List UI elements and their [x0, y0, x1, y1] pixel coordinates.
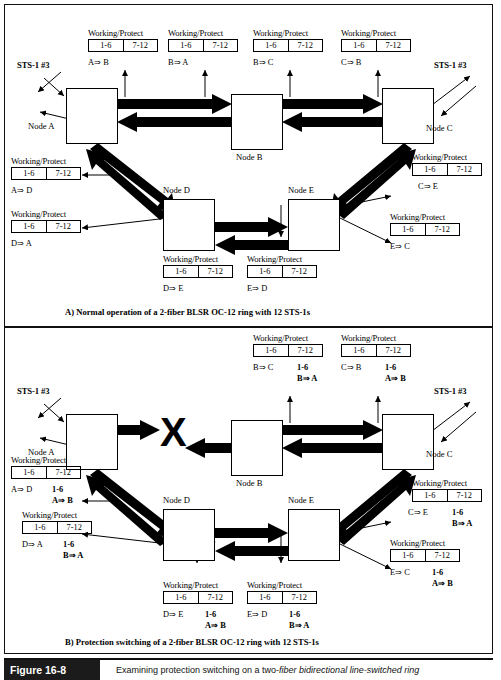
- wp-cell-working: 1-6: [169, 40, 204, 51]
- panelB-node-d-box[interactable]: [163, 509, 215, 561]
- wp-cell-protect: 7-12: [377, 40, 411, 51]
- panelB-table-c-to-b: Working/Protect 1-6 7-12: [341, 334, 411, 357]
- wp-box[interactable]: 1-6 7-12: [341, 344, 411, 357]
- panelB-flow-a-to-d: A⇒ D: [11, 485, 32, 495]
- wp-title: Working/Protect: [11, 157, 81, 166]
- panelB-sts-right: STS-1 #3: [434, 386, 466, 396]
- panelB-table-d-to-e: Working/Protect 1-6 7-12: [163, 581, 233, 604]
- wp-box[interactable]: 1-6 7-12: [247, 265, 317, 278]
- wp-cell-protect: 7-12: [377, 345, 411, 356]
- wp-box[interactable]: 1-6 7-12: [253, 39, 323, 52]
- wp-box[interactable]: 1-6 7-12: [22, 521, 92, 534]
- panelA-table-b-to-c: Working/Protect 1-6 7-12: [253, 29, 323, 52]
- panelA-node-d-box[interactable]: [163, 199, 215, 251]
- wp-box[interactable]: 1-6 7-12: [412, 163, 482, 176]
- wp-box[interactable]: 1-6 7-12: [11, 167, 81, 180]
- panelA-table-c-to-b: Working/Protect 1-6 7-12: [341, 29, 411, 52]
- panelA-node-c-box[interactable]: [382, 88, 434, 144]
- wp-title: Working/Protect: [412, 479, 482, 488]
- wp-box[interactable]: 1-6 7-12: [163, 591, 233, 604]
- wp-cell-working: 1-6: [12, 467, 47, 478]
- wp-box[interactable]: 1-6 7-12: [253, 344, 323, 357]
- panelA-table-d-to-a: Working/Protect 1-6 7-12: [11, 210, 81, 233]
- panelB-flow-c-to-b: C⇒ B: [341, 363, 361, 373]
- wp-title: Working/Protect: [11, 456, 81, 465]
- panel-divider: [5, 326, 492, 328]
- wp-title: Working/Protect: [22, 511, 92, 520]
- wp-cell-protect: 7-12: [204, 40, 238, 51]
- panelB-node-c-box[interactable]: [382, 414, 434, 470]
- panelA-table-d-to-e: Working/Protect 1-6 7-12: [163, 255, 233, 278]
- figure-page: Node A Node B Node C Node D Node E STS-1…: [0, 0, 501, 680]
- panelA-flow-d-to-a: D⇒ A: [11, 239, 32, 249]
- panelA-flow-c-to-e: C⇒ E: [418, 182, 438, 192]
- wp-box[interactable]: 1-6 7-12: [163, 265, 233, 278]
- panelA-node-b-box[interactable]: [231, 94, 283, 150]
- panelA-flow-e-to-c: E⇒ C: [390, 242, 410, 252]
- wp-cell-protect: 7-12: [199, 266, 233, 277]
- wp-title: Working/Protect: [412, 153, 482, 162]
- panelA-table-e-to-d: Working/Protect 1-6 7-12: [247, 255, 317, 278]
- figure-caption-bar: Figure 16-8 Examining protection switchi…: [4, 660, 493, 680]
- wp-cell-working: 1-6: [413, 490, 448, 501]
- panelB-prot-range-e-to-d: 1-6: [289, 610, 300, 620]
- wp-box[interactable]: 1-6 7-12: [168, 39, 238, 52]
- wp-title: Working/Protect: [253, 29, 323, 38]
- wp-cell-working: 1-6: [12, 221, 47, 232]
- panelB-prot-flow-d-to-e: A⇒ B: [205, 621, 226, 631]
- wp-cell-protect: 7-12: [199, 592, 233, 603]
- wp-title: Working/Protect: [163, 255, 233, 264]
- panelA-flow-b-to-c: B⇒ C: [253, 58, 273, 68]
- wp-box[interactable]: 1-6 7-12: [88, 39, 158, 52]
- panelB-prot-flow-b-to-c: B⇒ A: [297, 374, 317, 384]
- panelB-node-b-box[interactable]: [231, 420, 283, 476]
- wp-box[interactable]: 1-6 7-12: [247, 591, 317, 604]
- wp-cell-protect: 7-12: [47, 221, 81, 232]
- wp-title: Working/Protect: [163, 581, 233, 590]
- wp-cell-working: 1-6: [12, 168, 47, 179]
- panelA-node-d-label: Node D: [163, 185, 190, 195]
- wp-cell-protect: 7-12: [289, 40, 323, 51]
- panelB-prot-flow-e-to-c: A⇒ B: [432, 579, 453, 589]
- panelB-sts-left: STS-1 #3: [17, 386, 49, 396]
- wp-title: Working/Protect: [341, 29, 411, 38]
- panelB-prot-range-b-to-c: 1-6: [297, 363, 308, 373]
- panelB-prot-flow-d-to-a: B⇒ A: [63, 551, 83, 561]
- wp-cell-protect: 7-12: [448, 164, 482, 175]
- figure-caption: Examining protection switching on a two-…: [116, 665, 419, 675]
- panelB-prot-range-d-to-e: 1-6: [205, 610, 216, 620]
- wp-cell-protect: 7-12: [283, 266, 317, 277]
- panelB-flow-e-to-d: E⇒ D: [247, 610, 267, 620]
- panelA-table-e-to-c: Working/Protect 1-6 7-12: [390, 213, 460, 236]
- wp-title: Working/Protect: [168, 29, 238, 38]
- wp-cell-protect: 7-12: [283, 592, 317, 603]
- panelB-caption: B) Protection switching of a 2-fiber BLS…: [65, 637, 319, 647]
- panelA-node-e-box[interactable]: [288, 199, 340, 251]
- panelA-flow-c-to-b: C⇒ B: [341, 58, 361, 68]
- wp-box[interactable]: 1-6 7-12: [341, 39, 411, 52]
- wp-cell-working: 1-6: [248, 592, 283, 603]
- figure-caption-text: Examining protection switching on a two-: [116, 665, 279, 675]
- panelB-flow-c-to-e: C⇒ E: [408, 508, 428, 518]
- panelA-table-a-to-d: Working/Protect 1-6 7-12: [11, 157, 81, 180]
- panelB-table-c-to-e: Working/Protect 1-6 7-12: [412, 479, 482, 502]
- wp-cell-working: 1-6: [89, 40, 124, 51]
- wp-cell-working: 1-6: [254, 345, 289, 356]
- panelA-table-b-to-a: Working/Protect 1-6 7-12: [168, 29, 238, 52]
- panelA-node-a-box[interactable]: [66, 88, 118, 144]
- panelB-node-e-box[interactable]: [288, 509, 340, 561]
- panelB-flow-e-to-c: E⇒ C: [390, 568, 410, 578]
- wp-cell-working: 1-6: [248, 266, 283, 277]
- wp-box[interactable]: 1-6 7-12: [11, 220, 81, 233]
- panelB-prot-range-e-to-c: 1-6: [432, 568, 443, 578]
- wp-cell-protect: 7-12: [58, 522, 92, 533]
- panelA-flow-a-to-d: A⇒ D: [11, 186, 32, 196]
- wp-title: Working/Protect: [88, 29, 158, 38]
- panelB-table-a-to-d: Working/Protect 1-6 7-12: [11, 456, 81, 479]
- wp-box[interactable]: 1-6 7-12: [390, 549, 460, 562]
- wp-box[interactable]: 1-6 7-12: [11, 466, 81, 479]
- panelB-prot-range-c-to-b: 1-6: [385, 363, 396, 373]
- wp-box[interactable]: 1-6 7-12: [412, 489, 482, 502]
- wp-box[interactable]: 1-6 7-12: [390, 223, 460, 236]
- panelA-flow-b-to-a: B⇒ A: [168, 58, 188, 68]
